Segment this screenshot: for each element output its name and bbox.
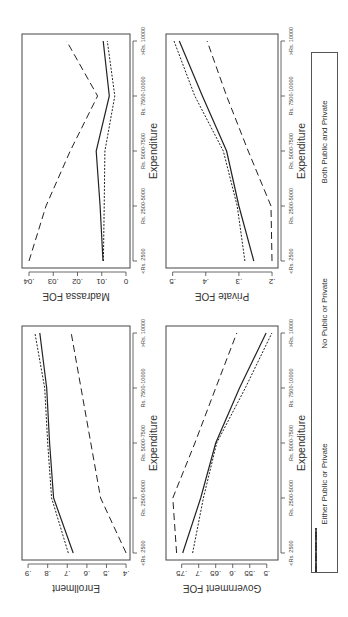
x-tick-label: Rs. 5000-7500 [140, 133, 146, 169]
y-tick-label: .6 [83, 569, 90, 578]
x-tick-label: Rs. 7500-10000 [288, 76, 294, 115]
y-tick-label: .5 [169, 277, 176, 286]
legend-label: Either Public or Private [320, 443, 329, 524]
y-tick-label: .03 [47, 277, 59, 286]
series-line-no-public-or-private [29, 41, 98, 261]
plot-frame [166, 326, 278, 560]
y-tick-label: .55 [244, 569, 256, 578]
x-tick-label: >Rs. 10000 [288, 319, 294, 347]
y-tick-label: .8 [44, 569, 51, 578]
y-tick-label: .4 [202, 277, 209, 286]
series-line-both-public-and-private [174, 41, 245, 261]
x-axis-title: Expenditure [295, 123, 307, 179]
x-tick-label: Rs. 2500-5000 [140, 188, 146, 224]
legend-label: No Public or Private [320, 278, 329, 349]
x-tick-label: Rs. 2500-5000 [288, 480, 294, 516]
x-tick-label: <Rs. 2500 [288, 540, 294, 565]
legend-item-either: Either Public or Private [320, 443, 329, 524]
x-tick-label: <Rs. 2500 [140, 540, 146, 565]
series-line-both-public-and-private [35, 333, 68, 553]
panel-enrollment: <Rs. 2500Rs. 2500-5000Rs. 5000-7500Rs. 7… [22, 319, 159, 594]
x-tick-label: <Rs. 2500 [140, 248, 146, 273]
series-line-no-public-or-private [207, 41, 272, 261]
y-axis: .4.5.6.7.8.9Enrollment [24, 564, 129, 594]
x-axis: <Rs. 2500Rs. 2500-5000Rs. 5000-7500Rs. 7… [133, 27, 159, 274]
y-axis-title: Enrollment [52, 583, 100, 594]
x-axis: <Rs. 2500Rs. 2500-5000Rs. 5000-7500Rs. 7… [281, 27, 307, 274]
x-tick-label: Rs. 2500-5000 [140, 480, 146, 516]
x-axis-title: Expenditure [147, 415, 159, 471]
panel-private-foe: <Rs. 2500Rs. 2500-5000Rs. 5000-7500Rs. 7… [166, 27, 307, 302]
rotated-figure: <Rs. 2500Rs. 2500-5000Rs. 5000-7500Rs. 7… [0, 0, 348, 617]
y-tick-label: .3 [235, 277, 242, 286]
x-tick-label: Rs. 5000-7500 [288, 425, 294, 461]
series-line-either-public-or-private [179, 41, 254, 261]
y-axis-title: Madrassa FOE [42, 291, 110, 302]
x-tick-label: Rs. 7500-10000 [288, 368, 294, 407]
series-line-no-public-or-private [173, 333, 237, 553]
y-tick-label: .5 [263, 569, 270, 578]
y-axis: 0.01.02.03.04Madrassa FOE [23, 272, 128, 302]
panel-government-foe: <Rs. 2500Rs. 2500-5000Rs. 5000-7500Rs. 7… [166, 319, 307, 594]
series-line-both-public-and-private [103, 41, 114, 261]
series-line-either-public-or-private [40, 333, 73, 553]
x-tick-label: Rs. 7500-10000 [140, 76, 146, 115]
y-tick-label: .75 [176, 569, 188, 578]
x-tick-label: Rs. 2500-5000 [288, 188, 294, 224]
legend: Either Public or Private No Public or Pr… [311, 52, 338, 573]
y-tick-label: .9 [24, 569, 31, 578]
y-tick-label: .5 [103, 569, 110, 578]
x-axis-title: Expenditure [295, 415, 307, 471]
legend-item-both: Both Public and Private [320, 100, 329, 183]
y-tick-label: .2 [268, 277, 275, 286]
chart-panels: <Rs. 2500Rs. 2500-5000Rs. 5000-7500Rs. 7… [0, 0, 348, 617]
y-tick-label: .02 [71, 277, 83, 286]
plot-frame [166, 34, 278, 268]
x-tick-label: <Rs. 2500 [288, 248, 294, 273]
legend-item-none: No Public or Private [320, 278, 329, 349]
dotted-line-icon [312, 528, 320, 572]
x-tick-label: >Rs. 10000 [140, 27, 146, 55]
x-axis-title: Expenditure [147, 123, 159, 179]
x-tick-label: Rs. 5000-7500 [140, 425, 146, 461]
y-tick-label: .4 [122, 569, 129, 578]
y-axis: .5.55.6.65.7.75Government FOE [176, 564, 271, 594]
x-axis: <Rs. 2500Rs. 2500-5000Rs. 5000-7500Rs. 7… [281, 319, 307, 566]
x-tick-label: >Rs. 10000 [288, 27, 294, 55]
legend-label: Both Public and Private [320, 100, 329, 183]
y-tick-label: .6 [229, 569, 236, 578]
y-tick-label: 0 [123, 277, 128, 286]
y-tick-label: .7 [63, 569, 70, 578]
panel-madrassa-foe: <Rs. 2500Rs. 2500-5000Rs. 5000-7500Rs. 7… [22, 27, 159, 302]
y-tick-label: .7 [195, 569, 202, 578]
x-tick-label: >Rs. 10000 [140, 319, 146, 347]
y-axis-title: Private FOE [194, 291, 249, 302]
y-axis-title: Government FOE [182, 583, 261, 594]
x-tick-label: Rs. 5000-7500 [288, 133, 294, 169]
series-line-either-public-or-private [96, 41, 109, 261]
y-tick-label: .01 [96, 277, 108, 286]
y-tick-label: .65 [210, 569, 222, 578]
series-line-no-public-or-private [71, 333, 126, 553]
x-tick-label: Rs. 7500-10000 [140, 368, 146, 407]
plot-frame [22, 34, 130, 268]
x-axis: <Rs. 2500Rs. 2500-5000Rs. 5000-7500Rs. 7… [133, 319, 159, 566]
y-tick-label: .04 [23, 277, 35, 286]
y-axis: .2.3.4.5Private FOE [169, 272, 276, 302]
series-line-both-public-and-private [193, 333, 272, 553]
